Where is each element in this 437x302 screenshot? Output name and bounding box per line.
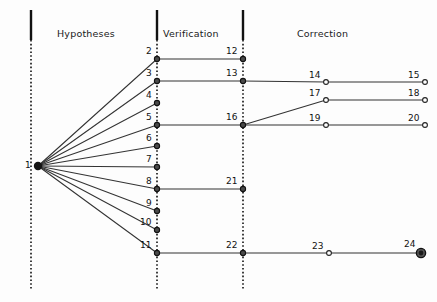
node-15-core — [423, 80, 428, 85]
node-24[interactable] — [416, 248, 425, 257]
node-18-core — [423, 98, 428, 103]
phase-label-verification: Verification — [163, 28, 219, 39]
edge-1-3 — [38, 81, 157, 166]
node-1-core — [34, 162, 42, 170]
node-label-11: 11 — [140, 240, 151, 250]
node-label-19: 19 — [309, 113, 320, 123]
node-2-core — [154, 56, 159, 61]
node-18[interactable] — [423, 98, 428, 103]
node-label-17: 17 — [309, 88, 320, 98]
node-23-core — [327, 251, 332, 256]
node-10-core — [154, 227, 159, 232]
node-label-3: 3 — [146, 68, 152, 78]
node-2[interactable] — [154, 56, 159, 61]
node-23[interactable] — [327, 251, 332, 256]
node-5-core — [154, 122, 159, 127]
node-6[interactable] — [154, 143, 159, 148]
node-label-5: 5 — [146, 112, 152, 122]
node-19[interactable] — [324, 123, 329, 128]
node-15[interactable] — [423, 80, 428, 85]
node-20-core — [423, 123, 428, 128]
node-label-24: 24 — [404, 239, 415, 249]
node-5[interactable] — [154, 122, 159, 127]
node-4[interactable] — [154, 100, 159, 105]
edge-1-8 — [38, 166, 157, 189]
diagram-graphics — [0, 0, 437, 302]
node-label-10: 10 — [140, 217, 151, 227]
node-label-23: 23 — [312, 241, 323, 251]
node-21[interactable] — [240, 186, 245, 191]
node-20[interactable] — [423, 123, 428, 128]
node-7-core — [154, 164, 159, 169]
node-label-7: 7 — [146, 154, 152, 164]
node-label-14: 14 — [309, 70, 320, 80]
node-10[interactable] — [154, 227, 159, 232]
node-13-core — [240, 78, 245, 83]
edge-1-9 — [38, 166, 157, 211]
node-label-20: 20 — [408, 113, 419, 123]
node-13[interactable] — [240, 78, 245, 83]
node-label-2: 2 — [146, 46, 152, 56]
node-16[interactable] — [240, 122, 245, 127]
node-8[interactable] — [154, 186, 159, 191]
phase-label-correction: Correction — [297, 28, 348, 39]
node-label-16: 16 — [226, 112, 237, 122]
node-3-core — [154, 78, 159, 83]
node-16-core — [240, 122, 245, 127]
edges-layer — [38, 59, 425, 253]
node-19-core — [324, 123, 329, 128]
node-label-21: 21 — [226, 176, 237, 186]
node-6-core — [154, 143, 159, 148]
edge-1-5 — [38, 125, 157, 166]
node-label-4: 4 — [146, 90, 152, 100]
node-12-core — [240, 56, 245, 61]
phase-dividers-layer — [31, 10, 243, 290]
node-1[interactable] — [34, 162, 42, 170]
node-3[interactable] — [154, 78, 159, 83]
node-label-22: 22 — [226, 240, 237, 250]
node-7[interactable] — [154, 164, 159, 169]
node-9[interactable] — [154, 208, 159, 213]
node-11-core — [154, 250, 159, 255]
phase-label-hypotheses: Hypotheses — [57, 28, 115, 39]
node-9-core — [154, 208, 159, 213]
node-14-core — [324, 80, 329, 85]
diagram-canvas: HypothesesVerificationCorrection 1234567… — [0, 0, 437, 302]
node-label-6: 6 — [146, 133, 152, 143]
node-24-core — [419, 251, 424, 256]
node-label-9: 9 — [146, 198, 152, 208]
node-17-core — [324, 98, 329, 103]
node-14[interactable] — [324, 80, 329, 85]
node-17[interactable] — [324, 98, 329, 103]
node-22-core — [240, 250, 245, 255]
node-label-12: 12 — [226, 46, 237, 56]
node-4-core — [154, 100, 159, 105]
node-label-18: 18 — [408, 88, 419, 98]
edge-13-14 — [243, 81, 326, 82]
node-label-13: 13 — [226, 68, 237, 78]
node-12[interactable] — [240, 56, 245, 61]
edge-1-7 — [38, 166, 157, 167]
node-label-8: 8 — [146, 176, 152, 186]
node-label-1: 1 — [25, 160, 31, 170]
node-22[interactable] — [240, 250, 245, 255]
node-label-15: 15 — [408, 70, 419, 80]
node-8-core — [154, 186, 159, 191]
node-21-core — [240, 186, 245, 191]
node-11[interactable] — [154, 250, 159, 255]
